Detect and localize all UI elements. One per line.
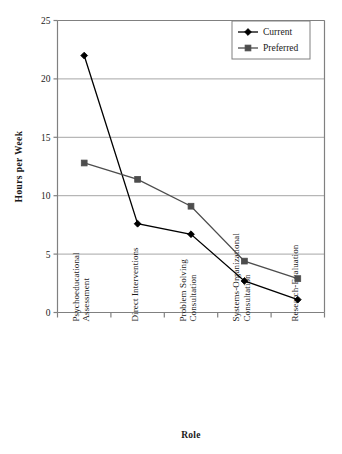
y-axis-title: Hours per Week [14, 130, 24, 202]
chart-canvas: 0510152025PsychoeducationalAssessmentDir… [0, 0, 342, 454]
y-tick-label: 10 [41, 191, 51, 201]
x-tick-label: Research-Evaluation [290, 244, 300, 321]
legend-label: Current [263, 27, 292, 37]
y-tick-label: 15 [41, 133, 51, 143]
x-tick-label: Consultation [188, 274, 198, 322]
legend-label: Preferred [263, 43, 299, 53]
y-tick-label: 5 [46, 250, 51, 260]
square-marker [135, 176, 141, 182]
x-tick-label: Problem Solving [178, 259, 188, 322]
x-tick-label: Psychoeducational [71, 252, 81, 322]
x-tick-label: Assessment [81, 278, 91, 322]
y-tick-label: 0 [46, 308, 51, 318]
square-marker [295, 276, 301, 282]
square-marker [81, 160, 87, 166]
x-tick-label: Direct Interventions [130, 247, 140, 322]
x-axis-title: Role [181, 430, 201, 440]
y-axis: 0510152025 [41, 16, 58, 318]
square-marker [188, 203, 194, 209]
square-marker [242, 258, 248, 264]
square-marker [245, 45, 251, 51]
legend: CurrentPreferred [232, 21, 310, 59]
y-tick-label: 25 [41, 16, 51, 26]
y-tick-label: 20 [41, 74, 51, 84]
line-chart: 0510152025PsychoeducationalAssessmentDir… [0, 0, 342, 454]
